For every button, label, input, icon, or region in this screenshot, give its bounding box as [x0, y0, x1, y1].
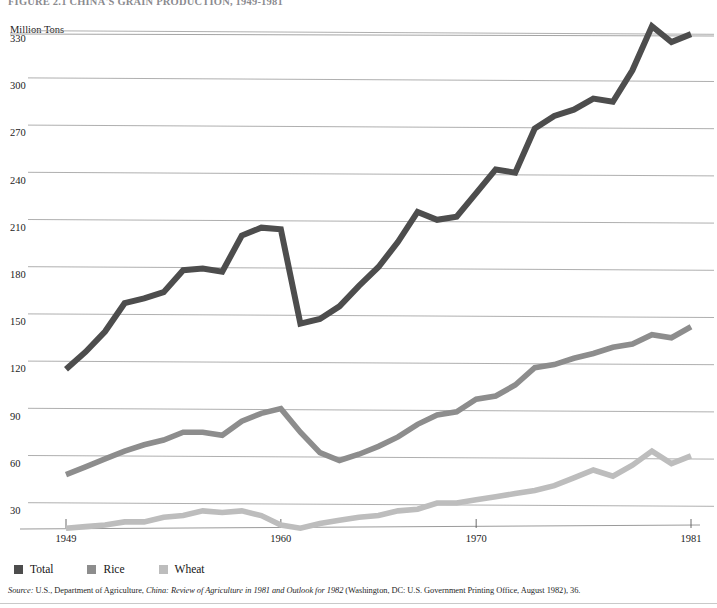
source-note: Source: U.S., Department of Agriculture,…	[8, 586, 580, 595]
bottom-divider-rule	[0, 603, 717, 604]
figure-container: FIGURE 2.1 CHINA'S GRAIN PRODUCTION, 194…	[0, 0, 717, 608]
y-tick-label-300: 300	[10, 81, 26, 92]
chart-legend: TotalRiceWheat	[14, 563, 239, 575]
source-title-italic: China: Review of Agriculture in 1981 and…	[146, 586, 343, 595]
legend-swatch-total-icon	[14, 565, 23, 574]
gridline-300	[28, 78, 714, 82]
y-tick-label-120: 120	[10, 364, 26, 375]
y-tick-label-330: 330	[10, 34, 26, 45]
series-line-total	[66, 26, 691, 369]
gridline-90	[28, 408, 714, 412]
legend-swatch-wheat-icon	[159, 565, 168, 574]
y-tick-label-30: 30	[10, 506, 21, 517]
gridline-120	[28, 361, 714, 365]
data-series-group	[66, 26, 691, 528]
gridline-240	[28, 172, 714, 176]
x-tick-label-1960: 1960	[270, 533, 291, 544]
y-tick-label-60: 60	[10, 459, 21, 470]
legend-swatch-rice-icon	[87, 565, 96, 574]
gridline-270	[28, 125, 714, 129]
gridline-150	[28, 314, 714, 318]
x-tick-label-1949: 1949	[56, 533, 77, 544]
source-text-part1: U.S., Department of Agriculture,	[33, 586, 146, 595]
y-tick-label-90: 90	[10, 412, 21, 423]
legend-item-wheat[interactable]: Wheat	[159, 563, 205, 575]
series-line-wheat	[66, 451, 691, 528]
y-tick-label-270: 270	[10, 128, 26, 139]
legend-label-total: Total	[30, 563, 53, 575]
gridline-30	[28, 503, 714, 507]
y-tick-label-210: 210	[10, 223, 26, 234]
gridline-180	[28, 267, 714, 271]
source-text-part2: (Washington, DC: U.S. Government Printin…	[343, 586, 580, 595]
y-tick-label-180: 180	[10, 270, 26, 281]
top-rule	[10, 34, 714, 36]
legend-item-total[interactable]: Total	[14, 563, 53, 575]
legend-label-wheat: Wheat	[175, 563, 205, 575]
source-label: Source:	[8, 586, 33, 595]
y-tick-label-150: 150	[10, 317, 26, 328]
chart-plot-area: 306090120150180210240270300330 194919601…	[0, 0, 717, 560]
x-tick-label-1970: 1970	[466, 533, 487, 544]
gridline-60	[28, 456, 714, 460]
x-tick-label-1981: 1981	[681, 533, 702, 544]
x-axis-line	[20, 525, 700, 529]
gridline-330	[28, 31, 714, 35]
legend-item-rice[interactable]: Rice	[87, 563, 124, 575]
y-tick-label-240: 240	[10, 176, 26, 187]
gridline-210	[28, 220, 714, 224]
series-line-rice	[66, 327, 691, 475]
grain-production-line-chart	[0, 0, 717, 560]
legend-label-rice: Rice	[103, 563, 124, 575]
